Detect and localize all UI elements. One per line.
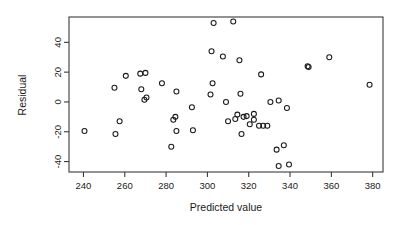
x-tick-label: 300 — [199, 180, 215, 191]
data-point — [211, 20, 216, 25]
data-point — [113, 132, 118, 137]
data-point — [235, 112, 240, 117]
x-tick-label: 260 — [117, 180, 133, 191]
data-point — [287, 162, 292, 167]
data-point — [138, 71, 143, 76]
data-point — [123, 73, 128, 78]
data-point — [284, 105, 289, 110]
data-point — [247, 122, 252, 127]
data-point — [159, 81, 164, 86]
data-point — [239, 132, 244, 137]
data-point — [238, 91, 243, 96]
data-point — [82, 129, 87, 134]
data-point — [174, 129, 179, 134]
data-point — [251, 117, 256, 122]
y-axis-ticks: -40-2002040 — [53, 37, 70, 168]
data-point — [268, 99, 273, 104]
y-tick-label: -20 — [53, 125, 64, 139]
chart-container: 240260280300320340360380 -40-2002040 Pre… — [0, 0, 400, 225]
y-tick-label: 40 — [53, 37, 64, 48]
data-point — [210, 81, 215, 86]
x-tick-label: 360 — [323, 180, 339, 191]
data-point — [251, 111, 256, 116]
x-tick-label: 340 — [282, 180, 298, 191]
y-tick-label: -40 — [53, 155, 64, 169]
data-point — [190, 128, 195, 133]
data-point — [224, 99, 229, 104]
data-point — [208, 92, 213, 97]
data-point — [276, 98, 281, 103]
y-tick-label: 0 — [53, 99, 64, 104]
data-point — [226, 119, 231, 124]
y-tick-label: 20 — [53, 67, 64, 78]
x-tick-label: 280 — [158, 180, 174, 191]
data-point — [139, 87, 144, 92]
data-points — [82, 19, 372, 169]
data-point — [112, 85, 117, 90]
x-tick-label: 240 — [76, 180, 92, 191]
data-point — [281, 143, 286, 148]
y-axis-label: Residual — [16, 75, 28, 116]
x-axis-label: Predicted value — [190, 201, 263, 213]
data-point — [367, 82, 372, 87]
x-tick-label: 320 — [241, 180, 257, 191]
data-point — [327, 55, 332, 60]
data-point — [209, 49, 214, 54]
data-point — [276, 164, 281, 169]
data-point — [189, 105, 194, 110]
data-point — [231, 19, 236, 24]
data-point — [169, 144, 174, 149]
data-point — [174, 89, 179, 94]
data-point — [244, 114, 249, 119]
data-point — [220, 54, 225, 59]
data-point — [237, 58, 242, 63]
data-point — [274, 147, 279, 152]
data-point — [143, 70, 148, 75]
plot-border — [69, 17, 383, 172]
x-axis-ticks: 240260280300320340360380 — [76, 172, 381, 191]
data-point — [259, 72, 264, 77]
plot-frame — [69, 17, 383, 172]
x-tick-label: 380 — [365, 180, 381, 191]
scatter-plot: 240260280300320340360380 -40-2002040 Pre… — [0, 0, 400, 225]
data-point — [117, 119, 122, 124]
